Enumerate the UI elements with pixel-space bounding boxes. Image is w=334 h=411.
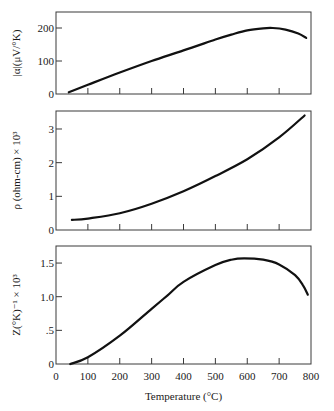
stacked-line-charts: 0100200 |α|(μV/°K) 0123 ρ (ohm-cm) × 10³… [0,0,334,411]
x-tick-label: 800 [303,370,320,382]
y-tick-label: 0 [49,88,55,100]
y-tick-labels: 0100200 [38,22,55,100]
y-axis-label: Z(°K)⁻¹ × 10³ [10,274,23,336]
x-tick-label: 100 [80,370,97,382]
y-tick-label: 0 [49,358,55,370]
y-tick-label: .5 [46,324,55,336]
y-tick-labels: 0.51.01.5 [40,257,54,370]
x-tick-label: 700 [271,370,288,382]
data-curve [69,28,306,92]
y-tick-labels: 0123 [49,123,55,236]
y-tick-label: 1.5 [40,257,54,269]
y-tick-label: 2 [49,157,55,169]
x-tick-label: 400 [175,370,192,382]
x-tick-label: 300 [143,370,160,382]
tick-marks [56,263,279,364]
plot-frame [56,246,311,364]
plot-frame [56,111,311,230]
x-tick-labels: 0100200300400500600700800 [53,370,320,382]
y-tick-label: 1.0 [40,291,54,303]
x-axis-label: Temperature (°C) [145,390,223,403]
y-tick-label: 100 [38,55,55,67]
panel-figure-of-merit: 0.51.01.5 0100200300400500600700800 Z(°K… [10,246,320,403]
tick-marks [56,129,279,230]
figure: 0100200 |α|(μV/°K) 0123 ρ (ohm-cm) × 10³… [0,0,334,411]
x-tick-label: 0 [53,370,59,382]
panel-seebeck: 0100200 |α|(μV/°K) [10,12,311,100]
x-tick-label: 200 [112,370,129,382]
x-tick-label: 600 [239,370,256,382]
y-axis-label: |α|(μV/°K) [10,29,23,76]
y-axis-label: ρ (ohm-cm) × 10³ [10,131,23,210]
y-tick-label: 1 [49,190,55,202]
y-tick-label: 0 [49,224,55,236]
y-tick-label: 200 [38,22,55,34]
data-curve [72,116,305,220]
x-tick-label: 500 [207,370,224,382]
data-curve [70,258,307,364]
panel-resistivity: 0123 ρ (ohm-cm) × 10³ [10,111,311,236]
y-tick-label: 3 [49,123,55,135]
